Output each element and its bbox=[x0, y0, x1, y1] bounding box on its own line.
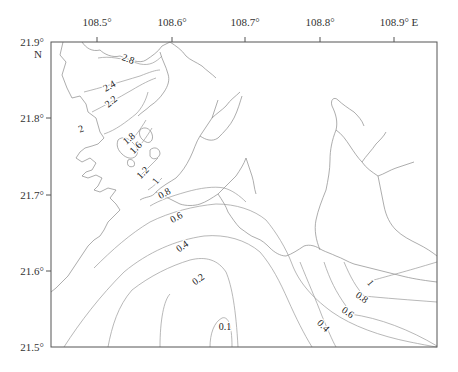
longitude-label-108-7: 108.7° bbox=[230, 17, 259, 28]
contour-label: 1.2 bbox=[134, 164, 151, 181]
contour-label: 0.8 bbox=[156, 185, 172, 201]
longitude-label-108-8: 108.8° bbox=[305, 17, 334, 28]
contour-label: 2.2 bbox=[102, 93, 119, 109]
contour-label: 0.8 bbox=[354, 289, 371, 305]
contour-label: 2 bbox=[77, 123, 85, 135]
contour-map: 2.8 2.4 2.2 2 1.8 1.6 1.2 1 0.8 0.6 0.4 … bbox=[0, 0, 458, 372]
north-label: N bbox=[34, 48, 42, 60]
longitude-label-108-6: 108.6° bbox=[157, 17, 186, 28]
contour-label: 0.2 bbox=[190, 271, 207, 287]
contour-label: 0.4 bbox=[174, 238, 191, 254]
contour-label: 0.6 bbox=[168, 209, 184, 225]
latitude-label-21-5: 21.5° bbox=[20, 342, 44, 353]
contour-label: 2.4 bbox=[101, 78, 117, 94]
contour-label: 2.8 bbox=[120, 51, 136, 66]
contour-label: 1 bbox=[365, 277, 377, 288]
map-canvas: 2.8 2.4 2.2 2 1.8 1.6 1.2 1 0.8 0.6 0.4 … bbox=[0, 0, 458, 372]
latitude-label-21-8: 21.8° bbox=[20, 113, 44, 124]
latitude-label-21-7: 21.7° bbox=[20, 190, 44, 201]
latitude-label-21-9: 21.9° bbox=[20, 37, 44, 48]
contour-label: 0.6 bbox=[340, 304, 357, 320]
contour-label-group: 2.8 2.4 2.2 2 1.8 1.6 1.2 1 0.8 0.6 0.4 … bbox=[77, 51, 377, 333]
contour-label: 0.1 bbox=[219, 321, 232, 332]
longitude-label-108-5: 108.5° bbox=[82, 17, 111, 28]
latitude-label-21-6: 21.6° bbox=[20, 266, 44, 277]
contour-label: 0.4 bbox=[315, 317, 332, 334]
contour-lines bbox=[64, 56, 437, 347]
longitude-label-108-9: 108.9° E bbox=[380, 17, 419, 28]
